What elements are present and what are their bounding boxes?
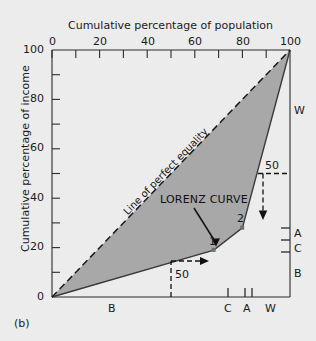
y-axis-ticks xyxy=(52,75,60,273)
y-group-ticks xyxy=(281,228,290,252)
guide-right-value: 50 xyxy=(265,160,279,171)
x-group-label-b: B xyxy=(108,303,116,314)
x-group-label-w: W xyxy=(265,303,276,314)
guide-bottom-value: 50 xyxy=(175,269,189,280)
y-group-label-c: C xyxy=(294,243,302,254)
x-group-label-a: A xyxy=(243,303,251,314)
x-group-label-c: C xyxy=(224,303,232,314)
y-group-label-b: B xyxy=(294,268,302,279)
x-group-ticks xyxy=(228,288,252,297)
panel-label: (b) xyxy=(14,318,30,329)
x-axis-ticks xyxy=(52,50,266,58)
lorenz-curve-label: LORENZ CURVE xyxy=(160,194,248,205)
guide-right-50 xyxy=(258,174,290,221)
lorenz-point-marker-2 xyxy=(240,226,244,230)
lorenz-point-label-1: 1 xyxy=(209,236,216,247)
y-group-label-a: A xyxy=(294,228,302,239)
figure-panel: Cumulative percentage of population 0 20… xyxy=(0,0,316,341)
lorenz-point-label-2: 2 xyxy=(237,213,244,224)
y-group-label-w: W xyxy=(294,105,305,116)
lorenz-point-marker-1 xyxy=(212,248,216,252)
